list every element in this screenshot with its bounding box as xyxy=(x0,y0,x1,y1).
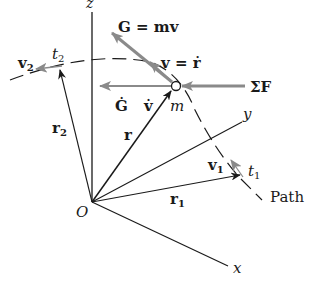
r2-label: r2 xyxy=(52,119,67,138)
mass-label: m xyxy=(170,97,184,115)
velocity-label: v = ṙ xyxy=(160,54,202,72)
t1-label: t1 xyxy=(248,162,260,181)
r-vector xyxy=(92,91,171,202)
force-label: ΣF xyxy=(250,78,272,96)
x-axis xyxy=(92,202,228,266)
z-axis-label: z xyxy=(85,0,94,11)
v1-label: v1 xyxy=(207,156,224,175)
t2-label: t2 xyxy=(52,45,64,64)
momentum-diagram: z y x O G = mv v = ṙ Ġ v̇ m ΣF r r1 r2 v… xyxy=(0,0,318,286)
momentum-label: G = mv xyxy=(118,18,180,36)
r1-label: r1 xyxy=(170,190,185,209)
v1-vector xyxy=(231,160,243,177)
v2-label: v2 xyxy=(17,54,34,73)
y-axis-dashed xyxy=(92,122,242,202)
y-axis-label: y xyxy=(242,105,252,123)
accel-label: v̇ xyxy=(143,97,154,115)
r1-vector xyxy=(92,175,240,202)
v2-vector xyxy=(36,66,62,69)
origin-label: O xyxy=(76,203,88,221)
momentum-rate-label: Ġ xyxy=(115,96,128,115)
particle-mass xyxy=(172,82,181,91)
x-axis-label: x xyxy=(233,259,242,277)
path-label: Path xyxy=(270,188,304,206)
r-label: r xyxy=(124,126,133,144)
